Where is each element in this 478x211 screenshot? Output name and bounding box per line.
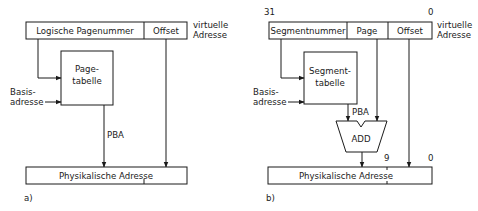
field-offset: Offset (397, 26, 423, 36)
virtual-address-label: Adresse (437, 30, 471, 40)
page-table: Page- tabelle (61, 51, 113, 105)
virtual-address-register: Segmentnummer Page Offset (269, 22, 432, 39)
diagram-a-paging: Logische Pagenummer Offset virtuelle Adr… (10, 20, 228, 203)
physical-address-label: Physikalische Adresse (59, 171, 153, 181)
caption-a: a) (24, 193, 33, 203)
physical-address-register: Physikalische Adresse (268, 167, 432, 184)
physical-address-label: Physikalische Adresse (299, 171, 393, 181)
adder-label: ADD (351, 134, 370, 144)
field-offset: Offset (153, 26, 179, 36)
page-table-label: tabelle (72, 76, 101, 86)
pba-label: PBA (352, 107, 369, 117)
base-address-label: adresse (253, 97, 287, 107)
bit-31-label: 31 (264, 7, 275, 17)
phys-bit-0-label: 0 (428, 153, 433, 163)
pba-label: PBA (107, 130, 124, 140)
field-page: Page (357, 26, 378, 36)
virtual-address-register: Logische Pagenummer Offset (26, 22, 187, 39)
virtual-address-label: Adresse (193, 30, 227, 40)
segment-table: Segment- tabelle (304, 52, 357, 104)
caption-b: b) (266, 193, 275, 203)
arrow-segment-number-to-table (281, 39, 304, 78)
field-segment-number: Segmentnummer (270, 26, 346, 36)
virtual-address-label: virtuelle (437, 20, 472, 30)
virtual-address-label: virtuelle (193, 20, 228, 30)
arrow-page-number-to-table (38, 39, 61, 78)
adder-unit: ADD (336, 121, 387, 152)
page-table-label: Page- (75, 64, 99, 74)
physical-address-register: Physikalische Adresse (26, 167, 187, 184)
phys-bit-9-label: 9 (384, 153, 389, 163)
address-translation-diagram: Logische Pagenummer Offset virtuelle Adr… (0, 0, 478, 211)
diagram-b-segmented-paging: 31 0 Segmentnummer Page Offset virtuelle… (253, 7, 472, 203)
field-logical-page-number: Logische Pagenummer (36, 26, 134, 36)
segment-table-label: Segment- (309, 66, 351, 76)
base-address-label: adresse (10, 97, 44, 107)
base-address-label: Basis- (253, 87, 279, 97)
base-address-label: Basis- (10, 87, 36, 97)
segment-table-label: tabelle (315, 78, 344, 88)
bit-0-label: 0 (428, 7, 433, 17)
